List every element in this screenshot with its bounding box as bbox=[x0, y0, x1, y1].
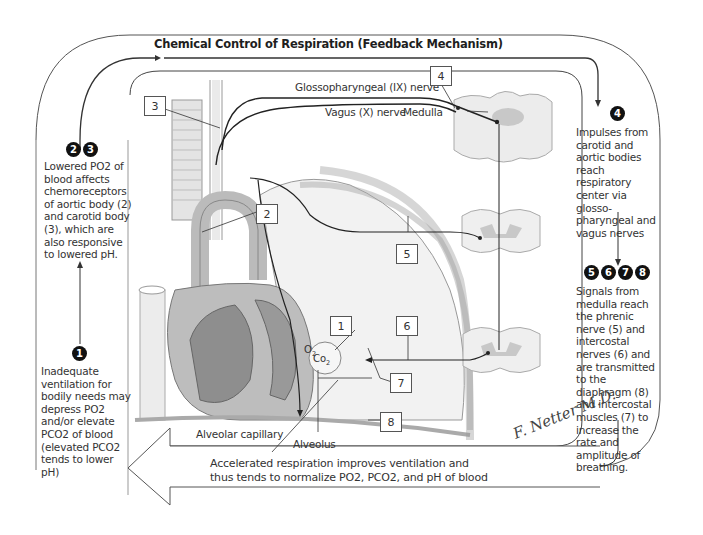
step-badge: 1 bbox=[72, 346, 87, 361]
spinal-cord-upper bbox=[462, 209, 540, 252]
step-1-badge: 1 bbox=[72, 346, 87, 361]
alveolar-capillary-label: Alveolar capillary bbox=[196, 428, 283, 440]
medulla-label: Medulla bbox=[403, 106, 443, 118]
alveolus-label: Alveolus bbox=[293, 438, 336, 450]
label-box-1: 1 bbox=[330, 316, 352, 336]
step-1-description: Inadequate ventilation for bodily needs … bbox=[41, 365, 131, 478]
co2-label: Co2 bbox=[313, 353, 330, 367]
step-badge: 6 bbox=[601, 265, 616, 280]
label-box-7: 7 bbox=[390, 373, 412, 393]
label-box-3: 3 bbox=[144, 96, 166, 116]
result-line-1: Accelerated respiration improves ventila… bbox=[210, 457, 488, 471]
result-line-2: thus tends to normalize PO2, PCO2, and p… bbox=[210, 471, 488, 485]
step-2-3-badges: 2 3 bbox=[66, 142, 98, 157]
glossopharyngeal-nerve-label: Glossopharyngeal (IX) nerve bbox=[295, 81, 439, 93]
medulla-graphic bbox=[454, 91, 552, 162]
step-badge: 8 bbox=[635, 265, 650, 280]
vagus-nerve-label: Vagus (X) nerve bbox=[325, 106, 406, 118]
step-4-badge: 4 bbox=[610, 106, 625, 121]
step-5-6-7-8-badges: 5 6 7 8 bbox=[584, 265, 650, 280]
result-description: Accelerated respiration improves ventila… bbox=[210, 457, 488, 485]
step-4-description: Impulses from carotid and aortic bodies … bbox=[576, 126, 660, 239]
trachea bbox=[172, 100, 202, 220]
label-box-4: 4 bbox=[430, 66, 452, 86]
step-badge: 2 bbox=[66, 142, 81, 157]
label-box-5: 5 bbox=[396, 244, 418, 264]
label-box-6: 6 bbox=[396, 316, 418, 336]
step-badge: 4 bbox=[610, 106, 625, 121]
step-badge: 5 bbox=[584, 265, 599, 280]
label-box-8: 8 bbox=[380, 412, 402, 432]
spinal-cord-lower bbox=[463, 327, 540, 372]
step-badge: 3 bbox=[83, 142, 98, 157]
diagram-title: Chemical Control of Respiration (Feedbac… bbox=[154, 37, 503, 51]
step-5-8-description: Signals from medulla reach the phrenic n… bbox=[576, 285, 662, 474]
label-box-2: 2 bbox=[256, 204, 278, 224]
step-2-3-description: Lowered PO2 of blood affects chemorecept… bbox=[44, 160, 134, 261]
step-badge: 7 bbox=[618, 265, 633, 280]
